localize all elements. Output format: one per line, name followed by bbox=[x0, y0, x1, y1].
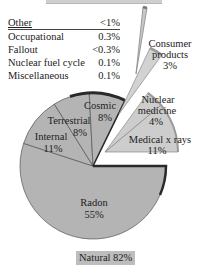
label-nuclear-medicine-line2: medicine bbox=[138, 105, 177, 116]
label-nuclear-medicine-line1: Nuclear bbox=[141, 94, 175, 105]
label-terrestrial-name: Terrestrial bbox=[48, 115, 91, 126]
label-consumer-products-pct: 3% bbox=[163, 60, 177, 71]
label-terrestrial-pct: 8% bbox=[73, 127, 87, 138]
label-medical-xrays-name: Medical x rays bbox=[129, 134, 191, 145]
label-medical-xrays-pct: 11% bbox=[148, 145, 167, 156]
label-cosmic-name: Cosmic bbox=[84, 100, 116, 111]
label-radon-pct: 55% bbox=[84, 209, 104, 220]
label-consumer-products-line2: products bbox=[152, 49, 188, 60]
label-consumer-products-line1: Consumer bbox=[148, 38, 192, 49]
label-cosmic-pct: 8% bbox=[98, 112, 112, 123]
label-nuclear-medicine-pct: 4% bbox=[149, 116, 163, 127]
pie-chart: Radon 55% Internal 11% Terrestrial 8% Co… bbox=[0, 0, 204, 274]
label-internal-pct: 11% bbox=[44, 143, 63, 154]
natural-total-label: Natural 82% bbox=[76, 251, 135, 265]
label-radon-name: Radon bbox=[80, 197, 108, 208]
other-rim bbox=[143, 7, 147, 8]
label-internal-name: Internal bbox=[35, 131, 68, 142]
